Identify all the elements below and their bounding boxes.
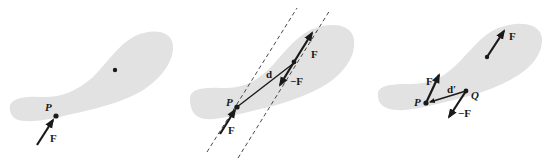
point-p-label: P bbox=[226, 96, 233, 108]
point-q-label: Q bbox=[471, 89, 479, 101]
point-p-dot bbox=[53, 113, 58, 118]
centroid-dot bbox=[113, 68, 117, 72]
force-label-at-p: F bbox=[426, 75, 433, 87]
upper-point-dot bbox=[292, 60, 297, 65]
force-label-negative: −F bbox=[458, 107, 471, 119]
rigid-body-force-diagram: P F P F F −F d F P Q bbox=[0, 0, 552, 163]
moment-arm-label: d bbox=[266, 68, 272, 80]
point-p-label: P bbox=[414, 96, 421, 108]
point-p-dot bbox=[234, 104, 239, 109]
force-label-negative: −F bbox=[290, 75, 303, 87]
moment-arm-label: d′ bbox=[447, 83, 456, 95]
rigid-body-shape bbox=[378, 24, 542, 110]
point-p-label: P bbox=[45, 101, 52, 113]
panel-2: P F F −F d bbox=[190, 8, 354, 158]
force-label-centroid: F bbox=[509, 30, 516, 42]
panel-3: F P Q F d′ −F bbox=[378, 24, 542, 119]
point-q-dot bbox=[464, 89, 469, 94]
panel-1: P F bbox=[10, 31, 173, 145]
force-label: F bbox=[50, 132, 57, 144]
force-label-upper: F bbox=[311, 48, 318, 60]
point-p-dot bbox=[423, 100, 428, 105]
rigid-body-shape bbox=[10, 31, 173, 121]
force-label-at-p: F bbox=[228, 124, 235, 136]
